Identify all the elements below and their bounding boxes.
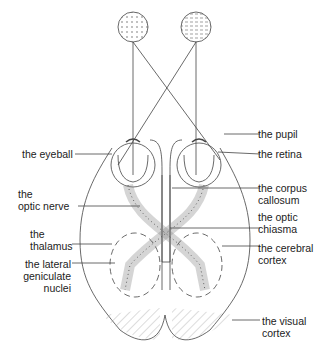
label-corpus-callosum: the corpus callosum <box>258 182 307 206</box>
label-eyeball: the eyeball <box>22 148 73 160</box>
visual-cortex-hatch <box>103 308 160 340</box>
label-retina: the retina <box>258 148 302 160</box>
corpus-callosum <box>162 175 170 262</box>
label-lateral-geniculate-nuclei: the lateral geniculate nuclei <box>16 258 71 294</box>
label-pupil: the pupil <box>258 128 298 140</box>
right-eyeball <box>177 143 221 187</box>
label-optic-nerve: the optic nerve <box>18 188 69 212</box>
left-visual-field-icon <box>118 12 148 42</box>
label-optic-chiasma: the optic chiasma <box>258 211 298 235</box>
brain-diagram-svg <box>0 0 334 358</box>
label-cerebral-cortex: the cerebral cortex <box>258 242 313 266</box>
label-thalamus: the thalamus <box>30 228 73 252</box>
label-visual-cortex: the visual cortex <box>262 315 306 339</box>
right-visual-field-icon <box>181 12 211 42</box>
visual-pathway-diagram: the pupil the eyeball the retina the opt… <box>0 0 334 358</box>
